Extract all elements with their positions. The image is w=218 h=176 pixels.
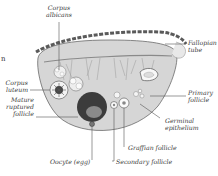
label-oocyte: Oocyte (egg) (50, 158, 90, 165)
ruptured-follicle-cells (69, 77, 83, 91)
label-line: Germinal (165, 117, 199, 124)
label-line: Corpus (46, 4, 72, 11)
label-line: luteum (2, 86, 28, 93)
label-line: ruptured (2, 103, 34, 110)
label-line: Primary (188, 89, 213, 96)
label-line: tube (188, 46, 217, 53)
label-line: Fallopian (188, 39, 217, 46)
label-secondary-follicle: Secondary follicle (116, 158, 172, 165)
label-line: Corpus (2, 79, 28, 86)
label-corpus-luteum: Corpus luteum (2, 79, 28, 93)
label-primary-follicle: Primary follicle (188, 89, 213, 103)
label-line: follicle (2, 110, 34, 117)
label-corpus-albicans: Corpus albicans (46, 4, 72, 18)
label-line: Mature (2, 96, 34, 103)
corpus-luteum (50, 81, 68, 99)
label-line: albicans (46, 11, 72, 18)
graafian-follicle (119, 98, 129, 108)
secondary-follicle (111, 102, 118, 109)
label-line: epithelium (165, 124, 199, 131)
ovary-illustration (0, 0, 218, 176)
label-graafian-follicle: Graffian follicle (128, 144, 177, 151)
label-line: follicle (188, 96, 213, 103)
corpus-albicans (54, 66, 66, 78)
label-mature-ruptured-follicle: Mature ruptured follicle (2, 96, 34, 117)
label-germinal-epithelium: Germinal epithelium (165, 117, 199, 131)
label-fallopian-tube: Fallopian tube (188, 39, 217, 53)
